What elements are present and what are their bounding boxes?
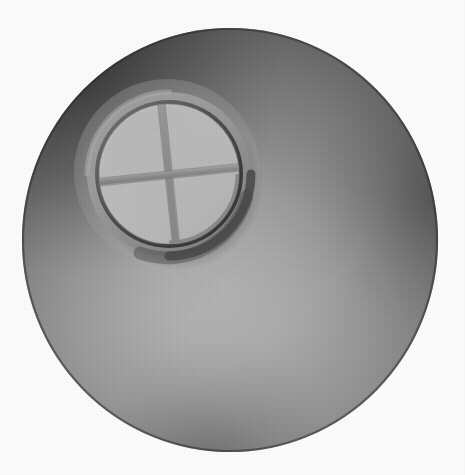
scene-vignette	[0, 0, 465, 475]
render-canvas	[0, 0, 465, 475]
sphere-scene-svg	[0, 0, 465, 475]
